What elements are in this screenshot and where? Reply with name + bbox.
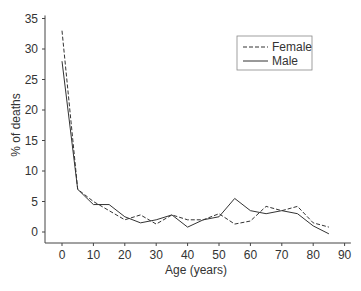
- x-tick-label: 0: [59, 248, 66, 262]
- x-axis-label: Age (years): [165, 263, 227, 277]
- legend: Female Male: [237, 36, 312, 70]
- line-chart: 051015202530350102030405060708090 Female…: [0, 0, 361, 291]
- y-tick-label: 15: [25, 134, 39, 148]
- x-tick-label: 30: [150, 248, 164, 262]
- y-tick-label: 20: [25, 103, 39, 117]
- legend-female-label: Female: [272, 40, 312, 54]
- x-tick-label: 10: [87, 248, 101, 262]
- y-tick-label: 5: [31, 195, 38, 209]
- y-tick-label: 0: [31, 225, 38, 239]
- x-tick-label: 60: [244, 248, 258, 262]
- y-tick-label: 25: [25, 73, 39, 87]
- y-axis-label: % of deaths: [9, 93, 23, 156]
- y-tick-label: 35: [25, 12, 39, 26]
- y-tick-label: 30: [25, 42, 39, 56]
- series-male-line: [62, 61, 329, 234]
- x-tick-label: 20: [118, 248, 132, 262]
- legend-male-label: Male: [272, 54, 298, 68]
- y-tick-label: 10: [25, 164, 39, 178]
- x-tick-label: 50: [212, 248, 226, 262]
- x-tick-label: 90: [338, 248, 352, 262]
- x-tick-label: 70: [275, 248, 289, 262]
- x-tick-label: 40: [181, 248, 195, 262]
- x-tick-label: 80: [307, 248, 321, 262]
